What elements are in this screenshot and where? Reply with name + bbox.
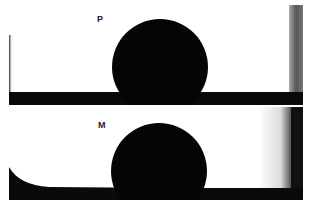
droplet-image-m bbox=[9, 107, 303, 200]
droplet-image-p bbox=[9, 5, 303, 105]
panel-p: P bbox=[9, 5, 303, 105]
panel-m: M bbox=[9, 107, 303, 200]
panel-label-p: P bbox=[97, 14, 103, 24]
panel-label-m: M bbox=[98, 120, 106, 130]
